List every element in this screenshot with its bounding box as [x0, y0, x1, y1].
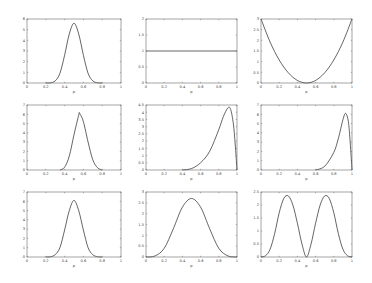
x-tick-label: 0 [26, 172, 29, 176]
y-tick-label: 1 [23, 71, 25, 75]
x-tick-label: 0.4 [180, 172, 186, 176]
chart-panel-1: 00.20.40.60.810123456p [23, 17, 122, 94]
y-tick-label: 3 [257, 140, 259, 144]
y-tick-label: 3 [142, 190, 144, 194]
x-tick-label: 0.6 [81, 259, 87, 263]
x-axis-label: p [73, 177, 76, 181]
y-tick-label: 1 [257, 159, 259, 163]
y-tick-label: 2 [23, 150, 25, 154]
y-tick-label: 5 [23, 122, 25, 126]
x-tick-label: 0.8 [331, 172, 337, 176]
x-tick-label: 0.8 [331, 85, 337, 89]
x-tick-label: 0.2 [161, 172, 167, 176]
x-tick-label: 0 [145, 85, 148, 89]
chart-panel-3: 00.20.40.60.8100.511.522.53p [253, 17, 353, 94]
y-tick-label: 1.5 [253, 216, 259, 220]
data-line [261, 195, 352, 257]
x-tick-label: 0.2 [276, 85, 282, 89]
chart-panel-5: 00.20.40.60.8100.511.522.533.544.5p [138, 103, 238, 181]
x-tick-label: 0.2 [161, 85, 167, 89]
x-tick-label: 0.8 [99, 259, 105, 263]
chart-panel-4: 00.20.40.60.8101234567p [23, 103, 122, 181]
y-tick-label: 4 [23, 131, 26, 135]
x-axis-label: p [305, 90, 308, 94]
x-tick-label: 0.4 [295, 259, 301, 263]
y-tick-label: 0.5 [253, 71, 259, 75]
x-tick-label: 0.6 [313, 172, 319, 176]
x-tick-label: 0.6 [198, 259, 204, 263]
data-line [146, 199, 237, 258]
x-tick-label: 1 [351, 172, 353, 176]
y-tick-label: 4 [23, 218, 26, 222]
x-tick-label: 0 [145, 259, 148, 263]
x-tick-label: 0 [260, 259, 263, 263]
x-tick-label: 1 [120, 85, 122, 89]
y-tick-label: 3.5 [138, 118, 144, 122]
y-tick-label: 4 [23, 39, 26, 43]
y-tick-label: 2.5 [253, 28, 259, 32]
y-tick-label: 1.5 [138, 33, 144, 37]
x-axis-label: p [73, 90, 76, 94]
axes-box [27, 192, 121, 257]
axes-box [146, 192, 237, 257]
data-line [60, 113, 102, 170]
x-tick-label: 0.6 [198, 172, 204, 176]
y-tick-label: 1.5 [138, 223, 144, 227]
x-tick-label: 0 [26, 259, 29, 263]
x-tick-label: 0.6 [198, 85, 204, 89]
x-tick-label: 0.6 [313, 259, 319, 263]
x-axis-label: p [190, 177, 193, 181]
axes-box [27, 105, 121, 170]
x-tick-label: 0 [260, 172, 263, 176]
x-tick-label: 0 [260, 85, 263, 89]
chart-panel-2: 00.20.40.60.8100.511.52p [138, 17, 238, 94]
x-axis-label: p [190, 90, 193, 94]
data-line [182, 107, 237, 170]
data-line [46, 23, 102, 83]
y-tick-label: 2 [142, 139, 144, 143]
axes-box [261, 192, 352, 257]
x-tick-label: 0.8 [216, 85, 222, 89]
x-tick-label: 0.6 [81, 172, 87, 176]
x-tick-label: 0.4 [62, 172, 68, 176]
y-tick-label: 2 [257, 203, 259, 207]
x-tick-label: 1 [236, 85, 238, 89]
y-tick-label: 3 [23, 49, 25, 53]
x-tick-label: 1 [351, 259, 353, 263]
figure-grid: 00.20.40.60.810123456p00.20.40.60.8100.5… [0, 0, 372, 283]
y-tick-label: 2.5 [253, 190, 259, 194]
x-tick-label: 0.2 [43, 259, 49, 263]
y-tick-label: 7 [257, 103, 259, 107]
x-tick-label: 1 [236, 259, 238, 263]
y-tick-label: 1 [142, 234, 144, 238]
x-tick-label: 0.8 [331, 259, 337, 263]
y-tick-label: 4 [257, 131, 260, 135]
x-tick-label: 0.4 [180, 259, 186, 263]
y-tick-label: 2 [23, 60, 25, 64]
data-line [316, 113, 352, 170]
x-axis-label: p [190, 264, 193, 268]
x-tick-label: 1 [351, 85, 353, 89]
y-tick-label: 1 [142, 49, 144, 53]
y-tick-label: 1 [142, 154, 144, 158]
x-tick-label: 0 [26, 85, 29, 89]
axes-box [27, 19, 121, 83]
y-tick-label: 0.5 [253, 242, 259, 246]
y-tick-label: 2 [257, 150, 259, 154]
y-tick-label: 6 [23, 17, 26, 21]
y-tick-label: 5 [23, 28, 25, 32]
y-tick-label: 4.5 [138, 103, 144, 107]
y-tick-label: 0.5 [138, 161, 144, 165]
x-tick-label: 1 [120, 172, 122, 176]
y-tick-label: 5 [257, 122, 259, 126]
y-tick-label: 0.5 [138, 244, 144, 248]
x-tick-label: 0.4 [295, 85, 301, 89]
data-line [46, 200, 102, 257]
x-tick-label: 0.6 [313, 85, 319, 89]
y-tick-label: 7 [23, 103, 25, 107]
y-tick-label: 2 [142, 17, 144, 21]
y-tick-label: 6 [257, 113, 260, 117]
x-tick-label: 1 [236, 172, 238, 176]
y-tick-label: 1 [257, 229, 259, 233]
x-tick-label: 1 [120, 259, 122, 263]
